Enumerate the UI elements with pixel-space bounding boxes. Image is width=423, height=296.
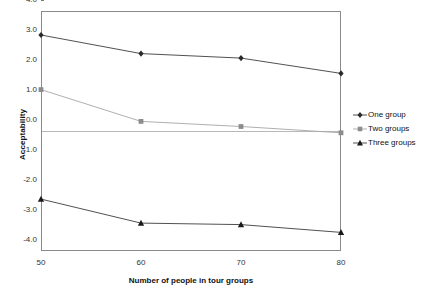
x-tick-label: 70 (221, 258, 261, 267)
y-tick-label: -2.0 (7, 176, 37, 184)
y-tick: -2.0 (4, 176, 37, 184)
square-marker-icon (358, 127, 363, 132)
y-tick: 1.0 (4, 86, 37, 94)
diamond-marker-icon (38, 32, 43, 38)
y-tick-label: 4.0 (7, 0, 37, 4)
y-tick: 4.0 (4, 0, 37, 4)
square-marker-icon (339, 130, 344, 135)
legend-label: Two groups (368, 124, 409, 134)
y-tick-label: 2.0 (7, 56, 37, 64)
y-tick: -1.0 (4, 146, 37, 154)
x-axis-title: Number of people in tour groups (41, 276, 341, 285)
square-marker-icon (139, 119, 144, 124)
y-tick-label: -3.0 (7, 206, 37, 214)
legend-item-diamond[interactable]: One group (352, 108, 423, 122)
x-tick-label: 80 (321, 258, 361, 267)
x-tick-label: 60 (121, 258, 161, 267)
x-tick-label: 50 (21, 258, 61, 267)
y-tick: 0.0 (4, 116, 37, 124)
diamond-marker-icon (238, 55, 243, 61)
y-tick-label: -4.0 (7, 236, 37, 244)
y-tick-label: 0.0 (7, 116, 37, 124)
triangle-marker-icon (38, 196, 44, 202)
y-tick-label: -1.0 (7, 146, 37, 154)
diamond-marker-icon (352, 109, 368, 121)
legend-label: Three groups (368, 138, 416, 148)
y-tick: 2.0 (4, 56, 37, 64)
triangle-marker-icon (352, 137, 368, 149)
square-marker-icon (39, 87, 44, 92)
diamond-marker-icon (338, 70, 343, 76)
y-axis-ticks: 4.03.02.01.00.0-1.0-2.0-3.0-4.0 (4, 0, 37, 240)
chart-legend: One groupTwo groupsThree groups (352, 108, 423, 150)
line-chart-figure: Acceptability 4.03.02.01.00.0-1.0-2.0-3.… (0, 0, 423, 296)
diamond-marker-icon (138, 51, 143, 57)
series-layer (41, 11, 341, 251)
series-2 (39, 87, 344, 135)
series-1 (38, 32, 343, 77)
y-tick-mark (41, 0, 44, 1)
legend-item-square[interactable]: Two groups (352, 122, 423, 136)
y-tick-label: 3.0 (7, 26, 37, 34)
legend-label: One group (368, 110, 406, 120)
series-line (41, 90, 341, 133)
y-tick: 3.0 (4, 26, 37, 34)
square-marker-icon (352, 123, 368, 135)
square-marker-icon (239, 124, 244, 129)
diamond-marker-icon (357, 112, 362, 118)
legend-item-triangle[interactable]: Three groups (352, 136, 423, 150)
y-tick: -4.0 (4, 236, 37, 244)
y-tick: -3.0 (4, 206, 37, 214)
series-line (41, 199, 341, 232)
series-3 (38, 196, 344, 235)
y-tick-label: 1.0 (7, 86, 37, 94)
series-line (41, 35, 341, 73)
